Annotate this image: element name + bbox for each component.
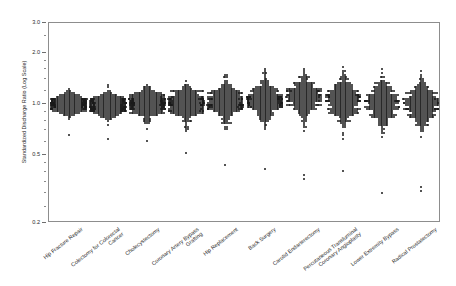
swarm-dot [371,98,373,100]
swarm-dot [228,116,230,118]
swarm-dot [262,116,264,118]
y-tick-major [42,103,46,104]
swarm-dot [143,90,145,92]
swarm-dot [286,90,288,92]
swarm-dot [231,114,233,116]
swarm-dot [230,84,232,86]
swarm-dot [301,112,303,114]
swarm-dot [427,124,429,126]
swarm-dot [213,106,215,108]
swarm-dot [90,108,92,110]
chart-figure: Standardized Discharge Ratio (Log Scale)… [0,0,456,286]
swarm-dot [293,88,295,90]
swarm-dot [381,68,383,70]
swarm-dot [405,102,407,104]
swarm-dot [262,86,264,88]
swarm-dot [334,106,336,108]
swarm-dot [366,94,368,96]
swarm-dot [100,106,102,108]
swarm-dot [238,110,240,112]
swarm-dot [303,174,305,176]
swarm-dot [393,90,395,92]
y-tick-major [42,52,46,53]
swarm-dot [114,116,116,118]
swarm-dot [209,108,211,110]
swarm-dot [380,90,382,92]
swarm-dot [344,70,346,72]
swarm-dot [325,96,327,98]
swarm-dot [436,92,438,94]
x-axis-label[interactable]: Hip Replacement [202,226,239,257]
swarm-dot [164,108,166,110]
swarm-dot [211,90,213,92]
swarm-dot [337,106,339,108]
swarm-dot [313,82,315,84]
swarm-dot [332,94,334,96]
swarm-dot [296,104,298,106]
x-axis-label[interactable]: Cholecystectomy [124,226,161,257]
y-tick-minor [44,60,47,61]
swarm-dot [412,98,414,100]
swarm-dot [160,98,162,100]
swarm-dot [371,90,373,92]
swarm-dot [97,108,99,110]
swarm-dot [264,122,266,124]
swarm-dot [252,108,254,110]
swarm-dot [180,102,182,104]
swarm-dot [395,114,397,116]
swarm-dot [141,100,143,102]
swarm-dot [397,102,399,104]
swarm-dot [426,88,428,90]
swarm-dot [339,78,341,80]
swarm-dot [163,112,165,114]
swarm-dot [170,90,172,92]
y-tick-major [42,154,46,155]
swarm-dot [213,96,215,98]
swarm-dot [380,122,382,124]
swarm-dot [308,76,310,78]
swarm-dot [305,126,307,128]
swarm-dot [366,106,368,108]
swarm-dot [277,90,279,92]
swarm-dot [337,84,339,86]
swarm-dot [339,112,341,114]
swarm-dot [250,90,252,92]
swarm-dot [272,114,274,116]
swarm-dot [376,90,378,92]
swarm-dot [107,124,109,126]
swarm-dot [383,80,385,82]
swarm-dot [68,134,70,136]
swarm-dot [339,94,341,96]
swarm-dot [195,114,197,116]
x-axis-label-line2: Grafting [154,231,204,272]
swarm-dot [378,86,380,88]
swarm-dot [160,92,162,94]
swarm-dot [334,84,336,86]
swarm-dot [434,114,436,116]
swarm-dot [202,106,204,108]
swarm-dot [136,94,138,96]
swarm-dot [218,114,220,116]
swarm-dot [334,90,336,92]
swarm-dot [414,102,416,104]
swarm-dot [66,96,68,98]
swarm-dot [380,106,382,108]
swarm-dot [417,84,419,86]
swarm-dot [73,92,75,94]
swarm-dot [129,112,131,114]
swarm-dot [378,98,380,100]
swarm-dot [291,88,293,90]
x-axis-label[interactable]: Back Surgery [247,226,277,251]
swarm-dot [175,102,177,104]
swarm-dot [257,90,259,92]
swarm-dot [278,100,280,102]
y-tick-minor [44,192,47,193]
swarm-dot [110,118,112,120]
swarm-dot [143,118,145,120]
swarm-dot [226,126,228,128]
swarm-dot [280,96,282,98]
swarm-dot [287,94,289,96]
swarm-dot [351,84,353,86]
swarm-dot [138,100,140,102]
swarm-dot [105,96,107,98]
